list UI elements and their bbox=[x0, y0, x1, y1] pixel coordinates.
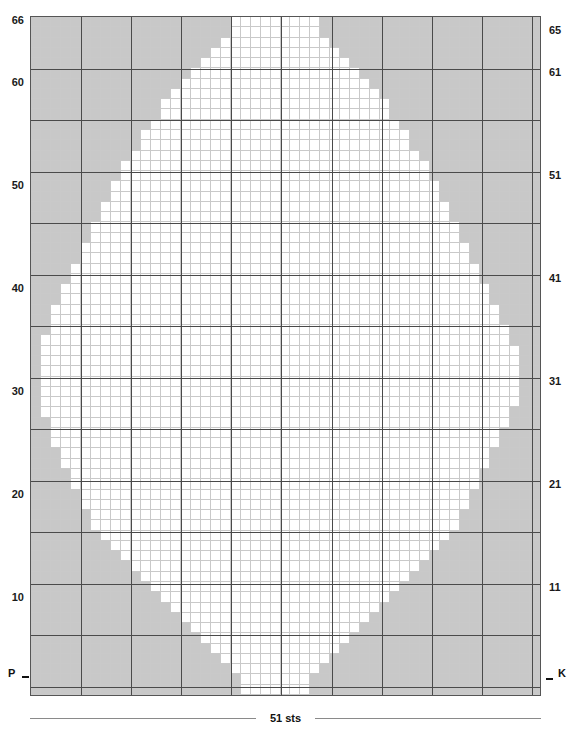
stitch-cell bbox=[450, 469, 460, 479]
stitch-cell bbox=[480, 99, 490, 109]
stitch-cell bbox=[251, 459, 261, 469]
stitch-cell bbox=[181, 407, 191, 417]
stitch-cell bbox=[430, 89, 440, 99]
stitch-cell bbox=[231, 438, 241, 448]
stitch-cell bbox=[261, 428, 271, 438]
stitch-cell bbox=[231, 541, 241, 551]
stitch-cell bbox=[171, 335, 181, 345]
stitch-cell bbox=[330, 531, 340, 541]
stitch-cell bbox=[151, 551, 161, 561]
stitch-cell bbox=[400, 469, 410, 479]
stitch-cell bbox=[300, 520, 310, 530]
stitch-cell bbox=[340, 284, 350, 294]
row-label-right: 21 bbox=[549, 479, 575, 490]
stitch-cell bbox=[300, 572, 310, 582]
stitch-cell bbox=[131, 479, 141, 489]
stitch-cell bbox=[350, 407, 360, 417]
stitch-cell bbox=[151, 623, 161, 633]
stitch-cell bbox=[61, 346, 71, 356]
stitch-cell bbox=[111, 366, 121, 376]
stitch-cell bbox=[450, 109, 460, 119]
stitch-cell bbox=[490, 633, 500, 643]
stitch-cell bbox=[320, 541, 330, 551]
stitch-cell bbox=[241, 510, 251, 520]
stitch-cell bbox=[420, 561, 430, 571]
stitch-cell bbox=[171, 644, 181, 654]
stitch-cell bbox=[101, 48, 111, 58]
stitch-cell bbox=[360, 315, 370, 325]
stitch-cell bbox=[350, 120, 360, 130]
stitch-cell bbox=[450, 243, 460, 253]
stitch-cell bbox=[131, 274, 141, 284]
stitch-cell bbox=[71, 315, 81, 325]
stitch-cell bbox=[300, 377, 310, 387]
stitch-cell bbox=[261, 17, 271, 27]
stitch-cell bbox=[400, 613, 410, 623]
stitch-cell bbox=[81, 490, 91, 500]
stitch-cell bbox=[131, 561, 141, 571]
stitch-cell bbox=[61, 428, 71, 438]
stitch-cell bbox=[141, 459, 151, 469]
stitch-cell bbox=[420, 315, 430, 325]
stitch-cell bbox=[31, 582, 41, 592]
stitch-cell bbox=[211, 181, 221, 191]
stitch-cell bbox=[31, 356, 41, 366]
stitch-cell bbox=[490, 428, 500, 438]
stitch-cell bbox=[101, 89, 111, 99]
stitch-cell bbox=[61, 633, 71, 643]
stitch-cell bbox=[101, 387, 111, 397]
stitch-cell bbox=[111, 109, 121, 119]
stitch-cell bbox=[141, 335, 151, 345]
stitch-cell bbox=[520, 151, 530, 161]
stitch-cell bbox=[51, 294, 61, 304]
stitch-cell bbox=[51, 161, 61, 171]
stitch-cell bbox=[390, 120, 400, 130]
stitch-cell bbox=[480, 500, 490, 510]
stitch-cell bbox=[330, 89, 340, 99]
stitch-cell bbox=[201, 305, 211, 315]
stitch-cell bbox=[470, 171, 480, 181]
stitch-cell bbox=[430, 346, 440, 356]
stitch-cell bbox=[81, 264, 91, 274]
stitch-cell bbox=[231, 520, 241, 530]
stitch-cell bbox=[201, 89, 211, 99]
stitch-cell bbox=[290, 377, 300, 387]
stitch-cell bbox=[261, 685, 271, 695]
stitch-cell bbox=[101, 479, 111, 489]
stitch-cell bbox=[360, 418, 370, 428]
stitch-cell bbox=[450, 500, 460, 510]
stitch-cell bbox=[131, 38, 141, 48]
stitch-cell bbox=[320, 38, 330, 48]
stitch-cell bbox=[111, 27, 121, 37]
stitch-cell bbox=[360, 58, 370, 68]
stitch-cell bbox=[101, 58, 111, 68]
stitch-cell bbox=[520, 243, 530, 253]
stitch-cell bbox=[360, 140, 370, 150]
row-label-left: 66 bbox=[0, 15, 24, 26]
stitch-cell bbox=[231, 38, 241, 48]
stitch-cell bbox=[81, 377, 91, 387]
stitch-cell bbox=[490, 233, 500, 243]
stitch-cell bbox=[360, 561, 370, 571]
stitch-cell bbox=[320, 623, 330, 633]
stitch-cell bbox=[310, 397, 320, 407]
stitch-cell bbox=[51, 459, 61, 469]
stitch-cell bbox=[171, 377, 181, 387]
stitch-cell bbox=[271, 171, 281, 181]
stitch-cell bbox=[81, 243, 91, 253]
stitch-cell bbox=[440, 592, 450, 602]
stitch-cell bbox=[261, 407, 271, 417]
stitch-cell bbox=[400, 572, 410, 582]
stitch-cell bbox=[360, 685, 370, 695]
stitch-cell bbox=[281, 109, 291, 119]
stitch-cell bbox=[500, 192, 510, 202]
stitch-cell bbox=[151, 407, 161, 417]
stitch-cell bbox=[330, 490, 340, 500]
stitch-cell bbox=[171, 397, 181, 407]
stitch-cell bbox=[480, 325, 490, 335]
stitch-cell bbox=[91, 603, 101, 613]
stitch-cell bbox=[261, 377, 271, 387]
stitch-cell bbox=[370, 644, 380, 654]
stitch-cell bbox=[350, 38, 360, 48]
stitch-cell bbox=[121, 284, 131, 294]
